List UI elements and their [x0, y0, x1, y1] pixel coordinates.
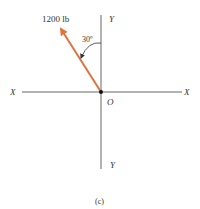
force-label: 1200 lb: [42, 14, 70, 24]
force-arrow: [61, 29, 101, 92]
x-axis-right-label: X: [183, 87, 190, 97]
y-axis-top-label: Y: [109, 14, 115, 24]
x-axis-left-label: X: [9, 87, 16, 97]
origin-label: O: [107, 97, 114, 107]
y-axis-bottom-label: Y: [110, 160, 116, 170]
angle-label: 30º: [82, 35, 93, 44]
angle-arc: [81, 43, 101, 58]
force-diagram: 1200 lb 30º Y Y X X O (c): [0, 0, 200, 209]
figure-caption: (c): [95, 197, 104, 206]
origin-point: [99, 90, 103, 94]
